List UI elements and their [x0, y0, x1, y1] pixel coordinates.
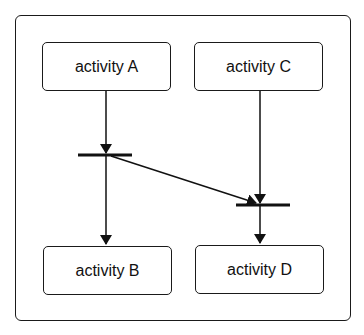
- activity-b-node: activity B: [43, 246, 172, 295]
- activity-d-node: activity D: [195, 245, 324, 294]
- activity-a-label: activity A: [75, 58, 138, 76]
- activity-a-node: activity A: [42, 42, 171, 91]
- edge-fork-to-join: [111, 156, 256, 203]
- activity-c-node: activity C: [194, 42, 323, 91]
- activity-c-label: activity C: [226, 58, 291, 76]
- activity-b-label: activity B: [75, 262, 139, 280]
- activity-d-label: activity D: [227, 261, 292, 279]
